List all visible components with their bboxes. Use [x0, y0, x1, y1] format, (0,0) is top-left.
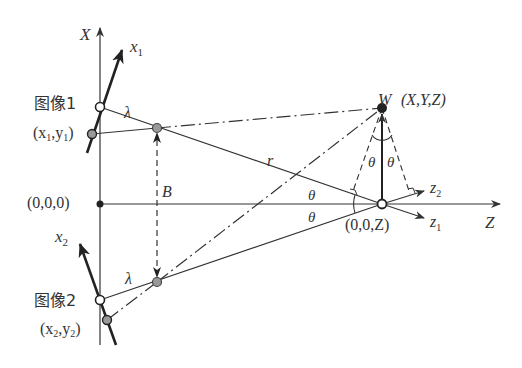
z1-label: z1 — [429, 213, 441, 233]
baseline-arrowhead-bottom — [153, 267, 161, 278]
world-point-coord-label: (X,Y,Z) — [401, 91, 446, 109]
optical-axis-2 — [100, 204, 382, 300]
ray-1-dashdot — [157, 108, 382, 128]
image1-point — [88, 130, 97, 139]
theta-w-left-label: θ — [368, 154, 376, 170]
world-x-label: X — [79, 25, 91, 44]
image2-label: 图像2 — [34, 291, 76, 310]
image-plane-2 — [80, 244, 116, 345]
diagram-canvas: X x1 图像1 (x1,y1) λ (0,0,0) B r x2 λ 图像2 … — [0, 0, 522, 368]
z2-arrow — [382, 191, 424, 204]
origin-label: (0,0,0) — [27, 194, 70, 212]
center-label: (0,0,Z) — [345, 216, 389, 234]
image1-coord-label: (x1,y1) — [33, 124, 74, 143]
ray-2-dashdot-a — [107, 282, 157, 320]
perp-to-axis-1 — [352, 108, 382, 194]
perp-to-axis-2 — [382, 108, 410, 194]
theta-center-bottom-label: θ — [308, 209, 316, 225]
lambda-bottom-label: λ — [124, 270, 132, 287]
camera1-axis-label: x1 — [129, 37, 143, 58]
camera2-axis-label: x2 — [54, 227, 68, 248]
baseline-label: B — [162, 183, 172, 200]
origin-point — [97, 201, 104, 208]
ray-2-dashdot-b — [157, 108, 382, 282]
image1-label: 图像1 — [34, 94, 76, 113]
image2-point — [103, 316, 112, 325]
stereo-geometry-diagram: X x1 图像1 (x1,y1) λ (0,0,0) B r x2 λ 图像2 … — [0, 0, 522, 368]
theta-w-right-label: θ — [387, 154, 395, 170]
lens1-point — [153, 124, 162, 133]
theta-center-top-label: θ — [308, 187, 316, 203]
z2-label: z2 — [429, 179, 441, 199]
world-point-name-label: W — [378, 91, 393, 108]
lens2-point — [153, 278, 162, 287]
lambda-top-label: λ — [123, 104, 131, 121]
right-angle-marker-2 — [408, 188, 415, 193]
image2-center-point — [96, 296, 105, 305]
image1-center-point — [96, 103, 105, 112]
center-point — [378, 200, 387, 209]
distance-r-label: r — [267, 152, 274, 169]
image2-coord-label: (x2,y2) — [40, 320, 81, 339]
world-z-label: Z — [485, 213, 495, 232]
optical-axis-1 — [100, 107, 382, 204]
ray-1-solid — [92, 128, 157, 134]
